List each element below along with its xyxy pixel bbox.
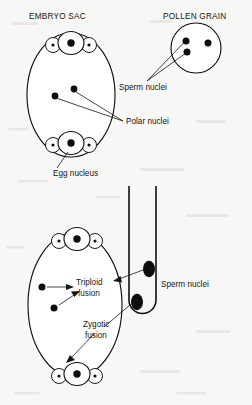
lower-panel: Triploid fusion Zygotic fusion Sperm nuc… [28,186,209,386]
antipodal-nucleus-right-lower [93,239,96,242]
sperm-nuclei-label-bottom: Sperm nuclei [161,280,209,289]
pollen-grain-heading: POLLEN GRAIN [163,12,227,21]
sperm-nuclei-leader-2 [147,54,185,81]
antipodal-nucleus-right [87,43,90,46]
polar-nuclei-label: Polar nuclei [126,117,169,126]
antipodal-nucleus-left-lower [57,239,60,242]
egg-nucleus-label: Egg nucleus [53,169,98,178]
fertilization-diagram: EMBRYO SAC POLLEN GRAIN [0,0,252,405]
egg-nucleus [67,139,74,146]
tube-nucleus [205,40,212,47]
sperm-nucleus-tube-upper [143,261,155,277]
embryo-sac-outline-lower [28,233,122,377]
antipodal-nucleus-center-lower [73,235,80,242]
sperm-nucleus-tube-lower [131,294,143,310]
polar-nucleus-right [71,86,78,93]
pollen-tube-group [129,186,156,314]
antipodal-nucleus-center [67,39,74,46]
triploid-inbound-line [119,270,143,279]
polar-nucleus-right-lower [51,305,58,312]
polar-nucleus-left-lower [39,284,46,291]
synergid-nucleus-left [51,143,54,146]
antipodal-cell-group-top [46,32,97,55]
antipodal-nucleus-left [51,43,54,46]
pollen-grain-group [147,23,221,81]
pollen-tube-wall [129,186,156,314]
triploid-fusion-label-line1: Triploid [76,278,103,287]
synergid-nucleus-left-lower [57,374,60,377]
polar-nucleus-left [52,93,59,100]
sperm-nuclei-label-top: Sperm nuclei [119,83,167,92]
triploid-fusion-label-line2: fusion [78,289,100,298]
upper-panel: EMBRYO SAC POLLEN GRAIN [27,12,227,178]
zygotic-fusion-label-line1: Zygotic [83,320,109,329]
egg-nucleus-lower [73,370,80,377]
synergid-nucleus-right [87,143,90,146]
zygotic-fusion-label-line2: fusion [85,331,107,340]
antipodal-cell-group-lower [52,228,103,251]
synergid-nucleus-right-lower [93,374,96,377]
diagram-canvas: EMBRYO SAC POLLEN GRAIN [0,0,252,405]
embryo-sac-heading: EMBRYO SAC [29,12,86,21]
